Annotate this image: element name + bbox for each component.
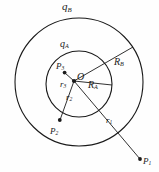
label-charge-qb: qB	[62, 1, 72, 13]
label-radius-ra: RA	[88, 80, 98, 91]
label-point-p3: P3	[56, 62, 64, 72]
label-distance-r3: r3	[60, 80, 66, 90]
physics-figure-concentric-shells: qB qA O P3 r3 RA RB r2 P2 r1 P1	[0, 0, 159, 172]
figure-canvas	[0, 0, 159, 172]
outer-shell-circle	[15, 18, 143, 146]
label-radius-rb: RB	[114, 57, 124, 68]
label-point-p1: P1	[143, 157, 151, 167]
label-distance-r1: r1	[106, 116, 112, 126]
label-charge-qa: qA	[60, 39, 69, 50]
label-point-p2: P2	[50, 127, 58, 137]
label-distance-r2: r2	[66, 93, 72, 103]
label-origin-o: O	[77, 72, 84, 82]
center-point-o	[72, 79, 76, 83]
point-dot-p2	[58, 118, 62, 122]
point-dot-p1	[138, 157, 142, 161]
